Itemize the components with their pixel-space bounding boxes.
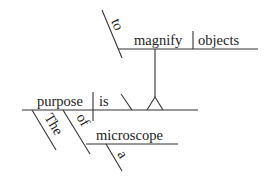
word-magnify: magnify: [134, 32, 183, 48]
word-to: to: [108, 16, 127, 33]
word-is: is: [99, 93, 109, 109]
complement-slant: [121, 94, 132, 110]
word-purpose: purpose: [37, 93, 83, 109]
word-of: of: [73, 110, 93, 129]
word-objects: objects: [198, 32, 239, 48]
word-a: a: [114, 147, 131, 161]
word-microscope: microscope: [96, 127, 163, 143]
pedestal: [147, 97, 163, 110]
word-the: The: [41, 110, 66, 138]
sentence-diagram: purpose is magnify objects microscope to…: [0, 0, 270, 180]
